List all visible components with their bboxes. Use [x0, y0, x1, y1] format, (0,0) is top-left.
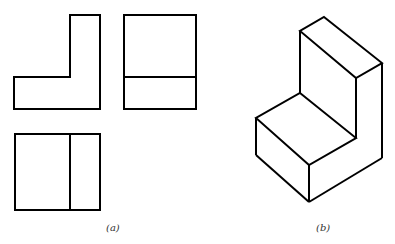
isometric-view: [256, 17, 382, 202]
side-view: [124, 15, 196, 109]
panel-a-label: (a): [106, 222, 120, 233]
top-view: [15, 134, 100, 210]
front-view: [14, 15, 100, 109]
panel-b-label: (b): [316, 222, 330, 233]
orthographic-diagram: [0, 0, 395, 244]
